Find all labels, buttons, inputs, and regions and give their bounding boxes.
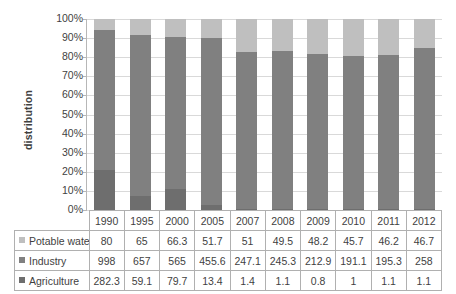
stacked-bar[interactable] (165, 19, 186, 210)
table-cell: 247.1 (230, 251, 265, 271)
table-column-header: 2007 (230, 211, 265, 231)
y-tick-label: 30% (43, 146, 83, 158)
bar-segment-potable-water[interactable] (94, 19, 115, 30)
bar-slot (229, 19, 265, 210)
table-cell: 46.2 (371, 231, 406, 251)
data-table-body: 1990199520002005200720082009201020112012… (15, 211, 442, 291)
bar-segment-potable-water[interactable] (130, 19, 151, 35)
bar-segment-potable-water[interactable] (165, 19, 186, 37)
bar-segment-industry[interactable] (236, 52, 257, 210)
y-axis-title-text: distribution (22, 60, 34, 180)
table-column-header: 2009 (301, 211, 336, 231)
bar-segment-potable-water[interactable] (201, 19, 222, 38)
bar-segment-industry[interactable] (378, 55, 399, 209)
table-cell: 65 (124, 231, 159, 251)
bar-slot (336, 19, 372, 210)
table-cell: 48.2 (301, 231, 336, 251)
table-cell: 212.9 (301, 251, 336, 271)
bar-segment-potable-water[interactable] (343, 19, 364, 56)
table-header-row: 1990199520002005200720082009201020112012 (15, 211, 442, 231)
plot-area: 0%10%20%30%40%50%60%70%80%90%100% (86, 19, 442, 210)
y-tick-label: 100% (43, 12, 83, 24)
stacked-bar[interactable] (307, 19, 328, 210)
table-cell: 1 (336, 271, 371, 291)
bar-segment-agriculture[interactable] (130, 196, 151, 210)
table-row: Industry998657565455.6247.1245.3212.9191… (15, 251, 442, 271)
bar-slot (87, 19, 123, 210)
legend-label: Potable water (29, 235, 89, 247)
bar-segment-industry[interactable] (201, 38, 222, 205)
y-tick-label: 50% (43, 108, 83, 120)
legend-item-industry[interactable]: Industry (15, 251, 90, 271)
table-cell: 245.3 (265, 251, 300, 271)
table-cell: 51 (230, 231, 265, 251)
bar-segment-agriculture[interactable] (94, 170, 115, 210)
legend-item-potable-water[interactable]: Potable water (15, 231, 90, 251)
stacked-bar[interactable] (414, 19, 435, 210)
stacked-bar[interactable] (94, 19, 115, 210)
table-column-header: 2010 (336, 211, 371, 231)
table-column-header: 2005 (195, 211, 230, 231)
bar-segment-industry[interactable] (272, 51, 293, 209)
bar-segment-potable-water[interactable] (414, 19, 435, 48)
bar-segment-industry[interactable] (307, 54, 328, 209)
table-corner-cell (15, 211, 90, 231)
y-axis-title: distribution (22, 0, 36, 60)
table-cell: 1.1 (371, 271, 406, 291)
table-cell: 998 (89, 251, 124, 271)
bar-segment-potable-water[interactable] (307, 19, 328, 54)
stacked-bar[interactable] (378, 19, 399, 210)
bar-slot (194, 19, 230, 210)
y-tick-label: 70% (43, 69, 83, 81)
table-cell: 13.4 (195, 271, 230, 291)
y-tick-label: 10% (43, 184, 83, 196)
table-cell: 66.3 (160, 231, 195, 251)
bar-segment-industry[interactable] (343, 56, 364, 209)
legend-label: Industry (29, 255, 66, 267)
table-cell: 80 (89, 231, 124, 251)
stacked-bar[interactable] (130, 19, 151, 210)
table-column-header: 1990 (89, 211, 124, 231)
y-tick-label: 20% (43, 165, 83, 177)
y-tick-label: 60% (43, 88, 83, 100)
table-cell: 191.1 (336, 251, 371, 271)
legend-item-agriculture[interactable]: Agriculture (15, 271, 90, 291)
stacked-bar[interactable] (201, 19, 222, 210)
bar-group (87, 19, 442, 210)
table-column-header: 2000 (160, 211, 195, 231)
table-column-header: 1995 (124, 211, 159, 231)
bar-segment-agriculture[interactable] (165, 189, 186, 210)
bar-segment-industry[interactable] (414, 48, 435, 209)
bar-segment-potable-water[interactable] (378, 19, 399, 55)
table-cell: 455.6 (195, 251, 230, 271)
y-tick-label: 80% (43, 50, 83, 62)
stacked-bar[interactable] (272, 19, 293, 210)
table-cell: 59.1 (124, 271, 159, 291)
bar-segment-industry[interactable] (165, 37, 186, 189)
bar-slot (371, 19, 407, 210)
bar-slot (300, 19, 336, 210)
stacked-bar[interactable] (236, 19, 257, 210)
table-cell: 46.7 (406, 231, 441, 251)
bar-slot (123, 19, 159, 210)
bar-slot (158, 19, 194, 210)
table-row: Agriculture282.359.179.713.41.41.10.811.… (15, 271, 442, 291)
table-cell: 51.7 (195, 231, 230, 251)
legend-swatch-icon (19, 237, 25, 243)
stacked-bar[interactable] (343, 19, 364, 210)
table-column-header: 2011 (371, 211, 406, 231)
legend-label: Agriculture (29, 275, 79, 287)
bar-segment-potable-water[interactable] (272, 19, 293, 51)
y-tick-label: 40% (43, 127, 83, 139)
y-tick-label: 90% (43, 31, 83, 43)
bar-segment-industry[interactable] (94, 30, 115, 170)
table-cell: 282.3 (89, 271, 124, 291)
table-cell: 565 (160, 251, 195, 271)
chart-figure: distribution 0%10%20%30%40%50%60%70%80%9… (0, 0, 456, 294)
table-cell: 45.7 (336, 231, 371, 251)
table-cell: 195.3 (371, 251, 406, 271)
table-cell: 258 (406, 251, 441, 271)
bar-segment-potable-water[interactable] (236, 19, 257, 52)
table-cell: 1.1 (406, 271, 441, 291)
bar-segment-industry[interactable] (130, 35, 151, 196)
